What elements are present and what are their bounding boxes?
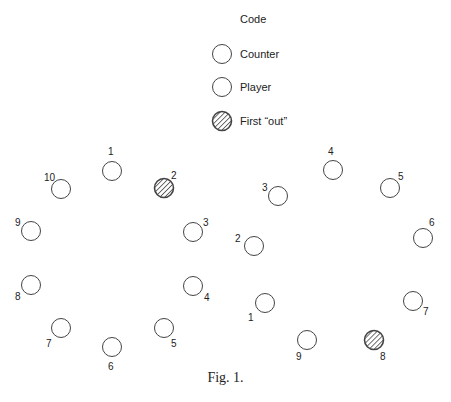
left-player-number: 3 xyxy=(203,218,209,228)
legend-title: Code xyxy=(240,13,266,25)
right-player-7 xyxy=(404,292,423,311)
right-player-number: 5 xyxy=(398,172,404,182)
left-player-8 xyxy=(22,276,41,295)
right-player-number: 9 xyxy=(296,352,302,362)
right-player-number: 4 xyxy=(328,147,334,157)
right-player-1 xyxy=(256,294,275,313)
figure-caption: Fig. 1. xyxy=(0,370,451,386)
left-player-6 xyxy=(103,338,122,357)
legend-label-player: Player xyxy=(240,81,271,93)
legend-symbol-circle-icon xyxy=(213,78,232,97)
right-player-5 xyxy=(381,179,400,198)
left-player-7 xyxy=(52,319,71,338)
left-player-5 xyxy=(155,319,174,338)
right-player-8-first-out xyxy=(365,331,384,350)
figure-canvas xyxy=(0,0,451,402)
right-player-number: 2 xyxy=(235,234,241,244)
right-player-2 xyxy=(245,237,264,256)
left-player-number: 10 xyxy=(44,173,55,183)
left-player-number: 5 xyxy=(171,339,177,349)
circles-layer xyxy=(22,45,433,357)
left-player-3 xyxy=(184,223,203,242)
left-player-9 xyxy=(22,222,41,241)
right-player-9 xyxy=(298,331,317,350)
left-player-1 xyxy=(103,162,122,181)
right-player-6 xyxy=(414,229,433,248)
left-player-number: 8 xyxy=(15,292,21,302)
left-player-2-first-out xyxy=(155,179,174,198)
legend-label-first-out: First “out” xyxy=(240,115,287,127)
left-player-number: 7 xyxy=(46,339,52,349)
legend-symbol-circle-icon xyxy=(213,45,232,64)
right-player-number: 7 xyxy=(423,307,429,317)
left-player-number: 9 xyxy=(15,218,21,228)
legend-label-counter: Counter xyxy=(240,48,279,60)
right-player-number: 1 xyxy=(248,313,254,323)
left-player-4 xyxy=(184,277,203,296)
right-player-number: 8 xyxy=(380,352,386,362)
left-player-number: 2 xyxy=(171,171,177,181)
right-player-number: 6 xyxy=(429,218,435,228)
left-player-number: 1 xyxy=(108,147,114,157)
legend-symbol-first-out-icon xyxy=(213,112,232,131)
right-player-4 xyxy=(324,161,343,180)
right-player-number: 3 xyxy=(262,183,268,193)
figure: Code Counter Player First “out” 12345678… xyxy=(0,0,451,402)
left-player-number: 4 xyxy=(204,293,210,303)
right-player-3 xyxy=(269,187,288,206)
